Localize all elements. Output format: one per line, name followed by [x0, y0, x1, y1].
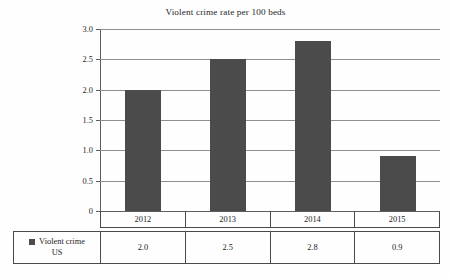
legend-cell: Violent crime US	[14, 232, 101, 263]
bar-slot	[355, 29, 440, 211]
category-label-2014: 2014	[271, 211, 356, 227]
y-tick-label: 1.0	[83, 146, 93, 155]
bar-2012	[125, 90, 161, 211]
legend-label: Violent crime US	[29, 237, 85, 258]
bar-slot	[185, 29, 270, 211]
chart-title: Violent crime rate per 100 beds	[0, 7, 451, 17]
bar-2013	[210, 59, 246, 211]
data-value-2012: 2.0	[101, 232, 186, 263]
legend-line-1: Violent crime	[29, 237, 85, 248]
data-value-2015: 0.9	[355, 232, 439, 263]
y-tick-label: 1.5	[83, 116, 93, 125]
y-tick-label: 0.5	[83, 176, 93, 185]
legend-series-name-line2: US	[29, 248, 85, 259]
bar-slot	[270, 29, 355, 211]
category-axis-row: 2012201320142015	[100, 211, 440, 228]
y-tick-label: 2.5	[83, 55, 93, 64]
y-tick-label: 3.0	[83, 25, 93, 34]
bar-slot	[100, 29, 185, 211]
category-label-2015: 2015	[355, 211, 439, 227]
y-tick-label: 0	[89, 207, 93, 216]
category-label-2012: 2012	[101, 211, 186, 227]
y-tick-label: 2.0	[83, 85, 93, 94]
legend-swatch-icon	[29, 239, 35, 245]
bars-layer	[100, 29, 440, 211]
category-label-2013: 2013	[186, 211, 271, 227]
bar-chart-figure: Violent crime rate per 100 beds 00.51.01…	[0, 0, 451, 279]
data-value-2013: 2.5	[186, 232, 271, 263]
data-value-cells: 2.02.52.80.9	[101, 232, 439, 263]
bar-2015	[380, 156, 416, 211]
data-value-2014: 2.8	[271, 232, 356, 263]
legend-series-name-line1: Violent crime	[39, 237, 85, 248]
data-table: Violent crime US 2.02.52.80.9	[13, 231, 440, 264]
bar-2014	[295, 41, 331, 211]
